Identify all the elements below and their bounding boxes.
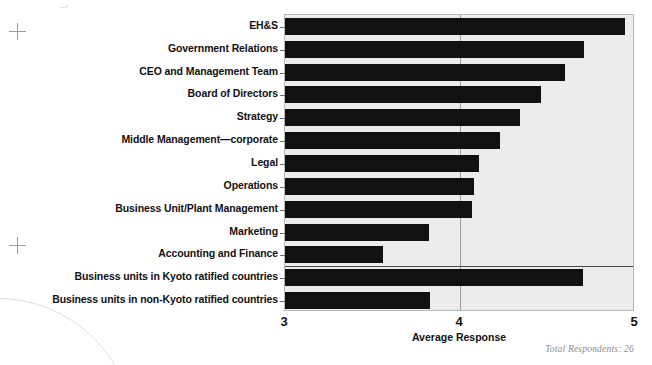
category-label: Middle Management—corporate	[0, 131, 278, 148]
category-label: EH&S	[0, 17, 278, 34]
category-tick-mark	[280, 278, 285, 279]
bar-row	[285, 246, 635, 263]
bar	[285, 224, 429, 241]
bar	[285, 109, 520, 126]
category-tick-mark	[280, 27, 285, 28]
category-label: Strategy	[0, 108, 278, 125]
bar-row	[285, 269, 635, 286]
x-tick-label-3: 3	[280, 314, 287, 329]
x-axis-title: Average Response	[284, 331, 634, 343]
category-tick-mark	[280, 210, 285, 211]
category-tick-mark	[280, 118, 285, 119]
group-separator-line	[285, 266, 633, 267]
x-tick-label-4: 4	[455, 314, 462, 329]
category-label: Business units in Kyoto ratified countri…	[0, 268, 278, 285]
total-respondents-note: Total Respondents: 26	[545, 344, 634, 354]
category-label: Legal	[0, 154, 278, 171]
category-tick-mark	[280, 187, 285, 188]
category-tick-mark	[280, 255, 285, 256]
category-label: Board of Directors	[0, 85, 278, 102]
bar	[285, 201, 472, 218]
category-tick-mark	[280, 95, 285, 96]
bar	[285, 178, 474, 195]
bar-row	[285, 155, 635, 172]
bar	[285, 246, 383, 263]
category-tick-mark	[280, 301, 285, 302]
bar-row	[285, 201, 635, 218]
bar-row	[285, 132, 635, 149]
bar	[285, 269, 583, 286]
category-label: Marketing	[0, 223, 278, 240]
bar	[285, 292, 430, 309]
category-label: CEO and Management Team	[0, 63, 278, 80]
category-axis-labels: EH&SGovernment RelationsCEO and Manageme…	[0, 14, 278, 311]
category-label: Business units in non-Kyoto ratified cou…	[0, 291, 278, 308]
bar	[285, 41, 584, 58]
category-tick-mark	[280, 73, 285, 74]
bar-row	[285, 292, 635, 309]
bar-row	[285, 109, 635, 126]
scan-smudge-artifact: _,	[60, 0, 96, 6]
bar-row	[285, 224, 635, 241]
bar	[285, 86, 541, 103]
category-label: Government Relations	[0, 40, 278, 57]
bar-row	[285, 86, 635, 103]
category-label: Operations	[0, 177, 278, 194]
bar	[285, 18, 625, 35]
bar-row	[285, 18, 635, 35]
category-label: Accounting and Finance	[0, 245, 278, 262]
category-tick-mark	[280, 233, 285, 234]
x-axis-tick-labels: 345	[0, 314, 652, 330]
bar-row	[285, 64, 635, 81]
bar-row	[285, 41, 635, 58]
x-tick-label-5: 5	[630, 314, 637, 329]
bar-chart-plot-area	[284, 14, 634, 311]
category-tick-mark	[280, 50, 285, 51]
bar-row	[285, 178, 635, 195]
category-label: Business Unit/Plant Management	[0, 200, 278, 217]
category-tick-mark	[280, 141, 285, 142]
bar	[285, 132, 500, 149]
bar	[285, 64, 565, 81]
bar	[285, 155, 479, 172]
category-tick-mark	[280, 164, 285, 165]
